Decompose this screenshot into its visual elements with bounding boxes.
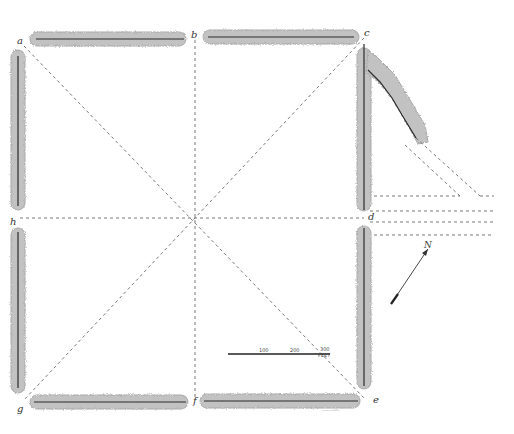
scale-mark-200: 200 [290,347,300,353]
north-arrow: N [391,240,433,304]
label-h: h [10,216,16,227]
label-d: d [368,211,374,222]
label-f: f [192,395,199,406]
scale-bar: 100 200 300 FEET [228,346,331,358]
label-e: e [373,394,379,405]
north-arrow-tail [391,294,398,304]
label-g: g [17,403,23,414]
wall-extension [366,50,428,144]
label-c: c [364,27,370,38]
extension-outer [416,138,480,196]
embankment-walls [11,30,428,409]
label-a: a [17,35,23,46]
label-b: b [191,29,197,40]
dashed-lines [20,38,494,400]
wall-center-lines [18,37,416,402]
north-arrow-head [422,249,428,256]
earthwork-plan: a b c d e f g h 100 200 300 FEET N ·····… [0,0,514,434]
scale-mark-100: 100 [259,347,269,353]
scale-unit: FEET [318,352,331,358]
north-label: N [423,240,433,250]
engraver-credit: ··········· [322,407,340,413]
